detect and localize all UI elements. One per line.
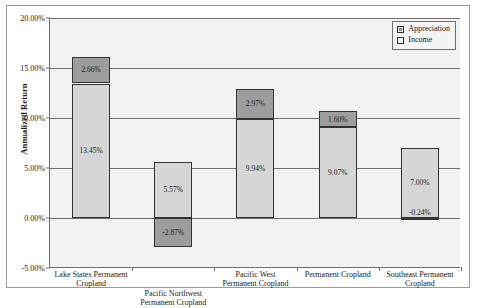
x-axis-category-label-line: Permanent Cropland xyxy=(120,298,226,307)
bar-value-label-income: 9.94% xyxy=(246,165,265,173)
bar-segment-income[interactable]: 9.07% xyxy=(319,127,357,218)
bar-group[interactable]: 13.45%2.66% xyxy=(50,18,132,267)
bar-value-label-income: 9.07% xyxy=(328,169,347,177)
y-tick-label: 10.00% xyxy=(20,114,45,123)
x-axis-category-label: Pacific NorthwestPermanent Cropland xyxy=(120,289,226,308)
bar-segment-appreciation[interactable]: 2.66% xyxy=(72,57,110,84)
bar-group[interactable]: 9.07%1.60% xyxy=(297,18,379,267)
bar-value-label-appreciation: 2.97% xyxy=(246,100,265,108)
bar-stack[interactable]: 7.00%-0.24% xyxy=(401,18,439,268)
chart-frame: Annualized Return 20.00%15.00%10.00%5.00… xyxy=(6,5,470,288)
plot-area: 20.00%15.00%10.00%5.00%0.00%-5.00% 13.45… xyxy=(49,18,460,268)
y-tick-label: 0.00% xyxy=(24,214,45,223)
bar-value-label-appreciation: 2.66% xyxy=(81,66,100,74)
bar-value-label-income: 13.45% xyxy=(80,147,103,155)
legend-item[interactable]: Income xyxy=(397,35,450,46)
bar-group[interactable]: 9.94%2.97% xyxy=(214,18,296,267)
bar-value-label-appreciation: 1.60% xyxy=(328,116,347,124)
bar-segment-appreciation[interactable]: -2.87% xyxy=(154,218,192,247)
x-axis-category-label-line: Cropland xyxy=(367,279,473,288)
bar-stack[interactable]: 9.94%2.97% xyxy=(236,18,274,268)
bar-group[interactable]: 7.00%-0.24% xyxy=(379,18,461,267)
bar-stack[interactable]: 5.57%-2.87% xyxy=(154,18,192,268)
x-axis-category-label-line: Permanent Cropland xyxy=(203,279,309,288)
bar-value-label-income: 7.00% xyxy=(410,179,429,187)
x-axis-category-label-line: Lake States Permanent xyxy=(38,270,144,279)
x-axis-category-label-line: Southeast Permanent xyxy=(367,270,473,279)
y-tick-label: 15.00% xyxy=(20,64,45,73)
y-tick-label: 20.00% xyxy=(20,14,45,23)
bar-segment-income[interactable]: 9.94% xyxy=(236,119,274,218)
legend-item-label: Appreciation xyxy=(408,24,450,35)
chart-legend: AppreciationIncome xyxy=(392,21,456,50)
legend-item[interactable]: Appreciation xyxy=(397,24,450,35)
bar-value-label-appreciation: -2.87% xyxy=(162,229,184,237)
x-axis-category-label-line: Cropland xyxy=(38,279,144,288)
bar-segment-appreciation[interactable]: 1.60% xyxy=(319,111,357,127)
legend-swatch-icon xyxy=(397,37,404,44)
bar-segment-appreciation[interactable]: 2.97% xyxy=(236,89,274,119)
x-axis-category-label: Lake States PermanentCropland xyxy=(38,270,144,289)
bar-segment-income[interactable]: 13.45% xyxy=(72,84,110,219)
x-axis-category-label-line: Pacific Northwest xyxy=(120,289,226,298)
bar-stack[interactable]: 9.07%1.60% xyxy=(319,18,357,268)
x-axis-category-label: Southeast PermanentCropland xyxy=(367,270,473,289)
bar-value-label-appreciation: -0.24% xyxy=(409,208,431,217)
bar-value-label-income: 5.57% xyxy=(164,186,183,194)
bar-segment-income[interactable]: 5.57% xyxy=(154,162,192,218)
bar-stack[interactable]: 13.45%2.66% xyxy=(72,18,110,268)
y-tick-mark xyxy=(46,268,50,269)
y-tick-label: 5.00% xyxy=(24,164,45,173)
bar-segment-appreciation[interactable] xyxy=(401,218,439,220)
legend-swatch-icon xyxy=(397,26,404,33)
legend-item-label: Income xyxy=(408,35,432,46)
bar-group[interactable]: 5.57%-2.87% xyxy=(132,18,214,267)
